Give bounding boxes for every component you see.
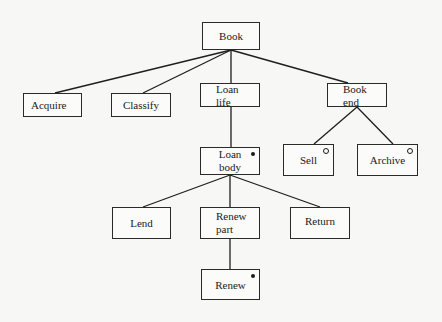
node-label: Classify bbox=[112, 99, 170, 112]
node-label: Book end bbox=[343, 83, 367, 109]
node-label: Loan life bbox=[216, 83, 239, 109]
node-sell: Sell bbox=[283, 144, 334, 176]
node-label: Sell bbox=[284, 154, 333, 167]
node-label: Acquire bbox=[31, 99, 66, 112]
node-book: Book bbox=[202, 22, 260, 50]
node-acquire: Acquire bbox=[23, 93, 82, 117]
selection-marker-icon bbox=[407, 148, 413, 154]
node-label: Renew part bbox=[216, 210, 247, 236]
edge-loan-body-lend bbox=[143, 175, 230, 207]
node-label: Loan body bbox=[201, 148, 259, 174]
node-label: Lend bbox=[113, 217, 170, 230]
node-loan-body: Loan body bbox=[200, 147, 260, 175]
node-classify: Classify bbox=[111, 93, 171, 117]
node-loan-life: Loan life bbox=[200, 83, 260, 107]
node-archive: Archive bbox=[357, 144, 418, 176]
edge-book-end-archive bbox=[357, 107, 393, 144]
edge-book-book-end bbox=[231, 50, 348, 83]
node-renew: Renew bbox=[201, 269, 260, 300]
node-label: Renew bbox=[202, 278, 259, 291]
selection-marker-icon bbox=[323, 148, 329, 154]
node-lend: Lend bbox=[112, 207, 171, 239]
node-book-end: Book end bbox=[327, 83, 387, 107]
node-renew-part: Renew part bbox=[200, 207, 260, 239]
iteration-marker-icon bbox=[251, 274, 255, 278]
edge-book-end-sell bbox=[314, 107, 357, 144]
iteration-marker-icon bbox=[251, 152, 255, 156]
node-label: Archive bbox=[358, 154, 417, 167]
node-label: Book bbox=[203, 30, 259, 43]
node-return: Return bbox=[290, 207, 350, 239]
edge-loan-body-return bbox=[230, 175, 320, 207]
node-label: Return bbox=[291, 214, 349, 227]
